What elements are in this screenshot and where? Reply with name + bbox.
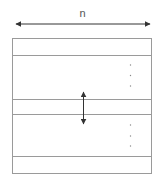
width-label: n [79,7,85,19]
row-dividers [13,56,152,157]
vertical-ellipsis-icon [130,124,131,146]
vertical-ellipsis-icon [130,64,131,86]
memory-layout-diagram: n [0,0,162,184]
outer-box [13,39,152,174]
